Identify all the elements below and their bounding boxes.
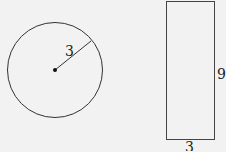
height-label: 9: [217, 66, 226, 82]
center-point: [53, 68, 57, 72]
diagram: 3 9 3: [0, 0, 226, 151]
circle-figure: 3: [8, 23, 103, 118]
width-label: 3: [185, 139, 194, 151]
rectangle-figure: 9 3: [167, 2, 226, 152]
radius-label: 3: [65, 43, 74, 59]
rectangle: [167, 2, 215, 140]
